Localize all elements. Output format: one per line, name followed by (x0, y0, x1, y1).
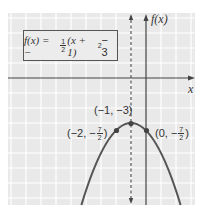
formula-fraction: 1 2 (60, 38, 66, 53)
formula-middle: (x + 1) (67, 34, 97, 58)
point-right-fraction: 7 2 (178, 126, 184, 141)
x-axis-label: x (188, 83, 193, 95)
formula-prefix: f(x) = − (24, 34, 59, 58)
vertex-point (128, 121, 133, 126)
point-left-label: (−2, − 7 2 ) (67, 126, 107, 141)
vertex-label: (−1, −3) (94, 105, 133, 116)
point-right (144, 128, 149, 133)
y-axis-label: f(x) (151, 13, 168, 25)
point-left-fraction: 7 2 (97, 126, 103, 141)
point-right-label: (0, − 7 2 ) (155, 126, 189, 141)
formula-suffix: − 3 (102, 34, 117, 58)
function-formula-box: f(x) = − 1 2 (x + 1) 2 − 3 (23, 30, 118, 61)
point-left (114, 128, 119, 133)
